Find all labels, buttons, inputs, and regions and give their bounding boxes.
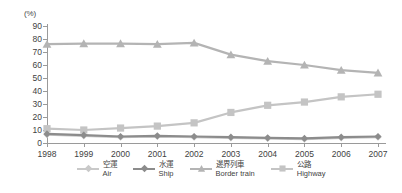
legend-label: 公路Highway (297, 160, 326, 178)
legend-symbol-icon (140, 164, 149, 173)
legend-label-en: Border train (216, 169, 255, 178)
x-tick-mark (378, 143, 379, 147)
x-tick-label: 2003 (211, 149, 251, 159)
x-tick-mark (157, 143, 158, 147)
data-point (301, 136, 308, 143)
data-point (226, 50, 235, 58)
x-tick-mark (194, 143, 195, 147)
data-point (154, 123, 161, 130)
legend-item-ship[interactable]: 水運Ship (133, 160, 174, 178)
data-point (117, 134, 124, 141)
series-highway (43, 91, 381, 134)
series-line (47, 43, 378, 73)
data-point (301, 135, 308, 142)
line-chart: (%) 0102030405060708090 1998199920002001… (0, 0, 402, 193)
data-point (300, 61, 309, 69)
x-tick-mark (121, 143, 122, 147)
legend-item-air[interactable]: 空運Air (77, 160, 117, 178)
series-border-train (43, 39, 383, 77)
legend-marker-triangle-icon (190, 160, 212, 178)
x-tick-label: 2005 (284, 149, 324, 159)
y-axis-line (47, 24, 48, 145)
legend-marker-diamond-icon (133, 160, 155, 178)
legend-symbol-shape (84, 165, 92, 173)
data-point (374, 133, 381, 140)
x-tick-label: 2002 (174, 149, 214, 159)
y-tick-label: 70 (22, 47, 42, 57)
series-line (47, 135, 378, 140)
data-point (263, 57, 272, 65)
legend-marker-square-icon (271, 160, 293, 178)
x-tick-label: 2007 (358, 149, 398, 159)
x-tick-label: 2006 (321, 149, 361, 159)
x-tick-mark (231, 143, 232, 147)
data-point (191, 119, 198, 126)
data-point (154, 133, 161, 140)
legend-symbol-icon (197, 164, 206, 173)
legend-symbol-icon (278, 164, 287, 173)
data-point (153, 40, 162, 48)
legend-label-cn: 水運 (159, 160, 174, 169)
x-tick-label: 1999 (64, 149, 104, 159)
data-point (117, 133, 124, 140)
y-tick-label: 10 (22, 125, 42, 135)
legend-label-en: Highway (297, 169, 326, 178)
legend-label-cn: 空運 (103, 160, 117, 169)
legend-label-en: Ship (159, 169, 174, 178)
x-tick-label: 2000 (101, 149, 141, 159)
data-point (374, 69, 383, 77)
legend-marker-diamond-icon (77, 160, 99, 178)
legend-symbol-shape (197, 165, 204, 172)
legend-symbol-icon (84, 164, 93, 173)
data-point (117, 124, 124, 131)
data-point (227, 109, 234, 116)
y-tick-label: 30 (22, 99, 42, 109)
data-point (154, 132, 161, 139)
legend-label-cn: 邊界列車 (216, 160, 255, 169)
data-point (337, 66, 346, 74)
data-point (264, 102, 271, 109)
series-ship (43, 130, 381, 142)
data-point (227, 134, 234, 141)
data-point (191, 133, 198, 140)
data-point (116, 39, 125, 47)
legend-label: 空運Air (103, 160, 117, 178)
data-point (338, 134, 345, 141)
data-point (191, 134, 198, 141)
y-tick-label: 20 (22, 112, 42, 122)
x-tick-label: 1998 (27, 149, 67, 159)
legend-label-cn: 公路 (297, 160, 326, 169)
data-point (80, 132, 87, 139)
legend-label: 邊界列車Border train (216, 160, 255, 178)
data-point (190, 39, 199, 47)
x-tick-label: 2001 (137, 149, 177, 159)
legend-symbol-shape (279, 165, 285, 171)
chart-legend: 空運Air水運Ship邊界列車Border train公路Highway (0, 160, 402, 190)
data-point (80, 126, 87, 133)
legend-label-en: Air (103, 169, 117, 178)
y-tick-label: 60 (22, 60, 42, 70)
data-point (374, 134, 381, 141)
x-tick-mark (268, 143, 269, 147)
data-point (227, 134, 234, 141)
data-point (338, 134, 345, 141)
legend-item-border-train[interactable]: 邊界列車Border train (190, 160, 255, 178)
y-tick-label: 80 (22, 34, 42, 44)
legend-item-highway[interactable]: 公路Highway (271, 160, 326, 178)
y-tick-label: 40 (22, 86, 42, 96)
data-point (264, 135, 271, 142)
y-tick-label: 0 (22, 138, 42, 148)
x-tick-mark (84, 143, 85, 147)
x-tick-label: 2004 (248, 149, 288, 159)
data-point (374, 91, 381, 98)
x-tick-mark (304, 143, 305, 147)
series-line (47, 134, 378, 139)
x-axis-line (47, 143, 386, 144)
y-tick-label: 90 (22, 21, 42, 31)
legend-label: 水運Ship (159, 160, 174, 178)
x-tick-mark (341, 143, 342, 147)
y-tick-label: 50 (22, 73, 42, 83)
x-tick-mark (47, 143, 48, 147)
data-point (338, 93, 345, 100)
data-point (301, 98, 308, 105)
